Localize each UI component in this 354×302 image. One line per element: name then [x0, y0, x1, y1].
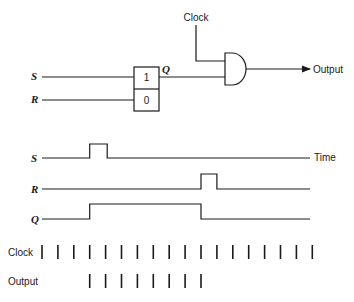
output-label: Output	[313, 64, 343, 75]
waveform-r	[42, 174, 310, 189]
waveform-s	[42, 144, 310, 158]
flipflop-reset-cell: 0	[144, 95, 150, 106]
r-input-label: R	[30, 93, 38, 105]
sr-flipflop-diagram: S R 1 0 Q Clock Output S R Q Time Clock …	[0, 0, 354, 302]
output-row-label: Output	[8, 276, 38, 287]
circuit: S R 1 0 Q Clock Output	[30, 12, 343, 111]
clock-wire	[196, 25, 225, 61]
flipflop-set-cell: 1	[144, 72, 150, 83]
q-signal-label: Q	[31, 213, 39, 225]
q-output-label: Q	[162, 63, 170, 75]
timing-diagram: S R Q Time Clock Output	[8, 144, 336, 288]
clock-input-label: Clock	[183, 12, 209, 23]
s-input-label: S	[31, 70, 37, 82]
and-gate	[225, 53, 246, 85]
waveform-q	[42, 204, 310, 219]
clock-row-label: Clock	[8, 247, 34, 258]
r-signal-label: R	[30, 183, 38, 195]
time-axis-label: Time	[314, 152, 336, 163]
s-signal-label: S	[31, 152, 37, 164]
